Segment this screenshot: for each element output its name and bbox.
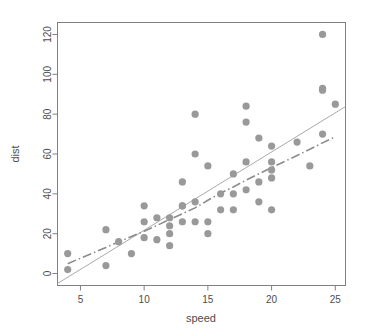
data-point — [319, 85, 326, 92]
x-axis-title: speed — [186, 312, 216, 324]
data-point — [332, 101, 339, 108]
data-point — [243, 186, 250, 193]
x-tick-label: 25 — [330, 294, 342, 305]
data-point — [268, 158, 275, 165]
data-point — [306, 162, 313, 169]
data-point — [230, 206, 237, 213]
data-point — [153, 214, 160, 221]
y-axis-title: dist — [9, 145, 21, 162]
data-point — [141, 234, 148, 241]
data-point — [204, 162, 211, 169]
data-point — [166, 230, 173, 237]
data-point — [243, 119, 250, 126]
data-point — [255, 134, 262, 141]
data-point — [268, 206, 275, 213]
data-point — [230, 170, 237, 177]
data-point — [102, 262, 109, 269]
x-tick-label: 10 — [139, 294, 151, 305]
data-point — [179, 218, 186, 225]
data-point — [64, 266, 71, 273]
data-point — [204, 230, 211, 237]
y-tick-label: 40 — [42, 188, 53, 200]
data-point — [166, 222, 173, 229]
y-tick-label: 0 — [42, 270, 53, 276]
data-point — [102, 226, 109, 233]
data-point — [166, 242, 173, 249]
data-point — [192, 218, 199, 225]
data-point — [217, 206, 224, 213]
data-point — [179, 202, 186, 209]
data-point — [293, 138, 300, 145]
x-tick-label: 20 — [266, 294, 278, 305]
data-point — [204, 218, 211, 225]
y-tick-label: 20 — [42, 228, 53, 240]
data-point — [268, 174, 275, 181]
data-point — [166, 214, 173, 221]
data-point — [255, 178, 262, 185]
plot-canvas: 510152025 020406080100120 speed dist — [0, 0, 370, 336]
data-point — [192, 198, 199, 205]
data-point — [230, 190, 237, 197]
data-point — [141, 202, 148, 209]
y-tick-label: 80 — [42, 108, 53, 120]
data-point — [217, 190, 224, 197]
x-tick-label: 5 — [78, 294, 84, 305]
data-point — [319, 31, 326, 38]
data-point — [141, 218, 148, 225]
scatter-plot-figure: 510152025 020406080100120 speed dist — [0, 0, 370, 336]
data-point — [268, 142, 275, 149]
y-tick-label: 120 — [42, 26, 53, 43]
data-point — [192, 111, 199, 118]
data-point — [179, 178, 186, 185]
data-point — [255, 198, 262, 205]
x-tick-label: 15 — [202, 294, 214, 305]
y-tick-label: 60 — [42, 148, 53, 160]
data-point — [128, 250, 135, 257]
data-point — [64, 250, 71, 257]
data-point — [268, 166, 275, 173]
data-point — [319, 130, 326, 137]
data-point — [243, 103, 250, 110]
data-point — [153, 236, 160, 243]
y-tick-label: 100 — [42, 66, 53, 83]
data-point — [243, 158, 250, 165]
data-point — [192, 150, 199, 157]
data-point — [115, 238, 122, 245]
